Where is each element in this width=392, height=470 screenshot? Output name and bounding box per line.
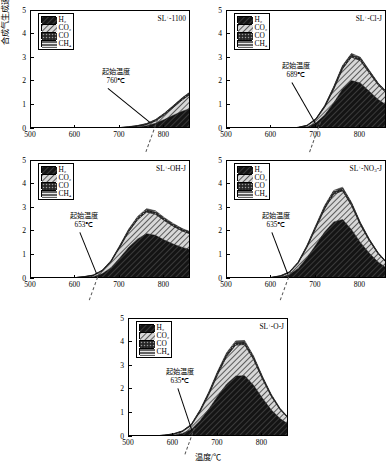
x-axis-label: 温度/℃	[180, 450, 236, 462]
y-tick-label: 5	[106, 314, 124, 323]
panel-title: SL+-O-J	[226, 322, 284, 331]
y-tick-mark	[128, 412, 132, 413]
y-tick-mark	[128, 436, 132, 437]
legend-swatch-co2	[139, 332, 154, 339]
legend: H₂ CO₂	[136, 321, 172, 358]
onset-value: 635℃	[171, 377, 190, 385]
y-tick-label: 2	[106, 384, 124, 393]
y-tick-mark	[128, 365, 132, 366]
y-tick-mark	[128, 341, 132, 342]
x-tick-label: 700	[203, 438, 231, 447]
legend-label-co: CO	[157, 340, 167, 347]
x-tick-label: 600	[158, 438, 186, 447]
x-tick-mark	[217, 433, 218, 437]
x-tick-mark	[172, 433, 173, 437]
y-tick-mark	[128, 318, 132, 319]
legend-swatch-h2	[139, 324, 154, 331]
onset-annotation: 起始温度 635℃	[152, 368, 208, 386]
legend-label-h2: H₂	[157, 324, 165, 331]
y-tick-mark	[128, 388, 132, 389]
y-tick-label: 0	[106, 432, 124, 441]
y-tick-label: 1	[106, 408, 124, 417]
figure-root: 合成气生成速率/[mmol·(min·g)⁻¹] 500600700800012…	[0, 0, 392, 470]
legend-item-ch4: CH₄	[139, 348, 169, 356]
x-tick-label: 800	[247, 438, 275, 447]
onset-label: 起始温度	[166, 368, 194, 376]
legend-label-co2: CO₂	[157, 332, 170, 339]
panel-sl-o-j: 500600700800012345 H₂	[0, 0, 392, 470]
legend-swatch-co	[139, 340, 154, 347]
x-tick-mark	[261, 433, 262, 437]
y-tick-label: 3	[106, 361, 124, 370]
legend-label-ch4: CH₄	[157, 348, 170, 355]
legend-swatch-ch4	[139, 348, 154, 355]
y-tick-label: 4	[106, 337, 124, 346]
